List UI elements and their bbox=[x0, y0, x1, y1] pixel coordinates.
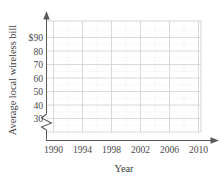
x-tick-label-1998: 1998 bbox=[102, 144, 121, 155]
y-axis-title: Average local wireless bill bbox=[7, 25, 18, 135]
x-tick-label-2002: 2002 bbox=[131, 144, 150, 155]
y-tick-label-60: 60 bbox=[33, 73, 43, 84]
x-axis-title: Year bbox=[114, 163, 134, 174]
x-axis-arrowhead-icon bbox=[211, 137, 220, 143]
chart-canvas: $90 80 70 60 50 40 30 1990 1994 1998 200… bbox=[0, 0, 224, 180]
x-axis bbox=[47, 137, 220, 143]
x-tick-label-1994: 1994 bbox=[73, 144, 92, 155]
y-tick-label-80: 80 bbox=[33, 46, 43, 57]
x-tick-label-2010: 2010 bbox=[189, 144, 208, 155]
chart-figure: $90 80 70 60 50 40 30 1990 1994 1998 200… bbox=[0, 0, 224, 180]
y-tick-label-70: 70 bbox=[33, 59, 43, 70]
y-tick-label-90: $90 bbox=[29, 32, 44, 43]
y-tick-label-50: 50 bbox=[33, 86, 43, 97]
x-tick-label-2006: 2006 bbox=[160, 144, 179, 155]
x-tick-labels: 1990 1994 1998 2002 2006 2010 bbox=[44, 144, 208, 155]
y-axis-arrowhead-icon bbox=[43, 11, 49, 20]
y-tick-labels: $90 80 70 60 50 40 30 bbox=[29, 32, 44, 124]
y-tick-label-40: 40 bbox=[33, 100, 43, 111]
y-tick-label-30: 30 bbox=[33, 113, 43, 124]
x-tick-label-1990: 1990 bbox=[44, 144, 63, 155]
